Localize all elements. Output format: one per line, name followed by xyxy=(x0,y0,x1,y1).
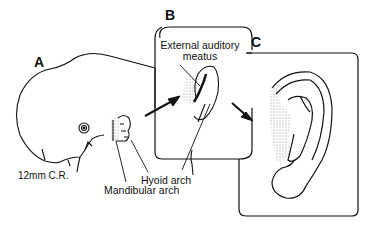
arrow-a-to-b xyxy=(145,96,180,116)
external-auditory-meatus-label: External auditory meatus xyxy=(152,40,248,62)
mandibular-leader xyxy=(116,141,126,182)
hyoid-leader xyxy=(131,140,148,172)
b-hyoid-leader xyxy=(182,104,210,170)
panel-a-letter: A xyxy=(34,54,44,70)
mandibular-arch-label: Mandibular arch xyxy=(104,185,179,196)
arrow-b-to-c xyxy=(232,103,253,121)
meatus-label-line2: meatus xyxy=(152,51,248,62)
panel-b-letter: B xyxy=(165,7,175,23)
embryo-drawing xyxy=(17,53,156,172)
crown-rump-label: 12mm C.R. xyxy=(18,170,69,181)
ear-development-diagram xyxy=(0,0,370,230)
panel-c-frame xyxy=(239,53,358,216)
panel-c-letter: C xyxy=(251,34,261,50)
